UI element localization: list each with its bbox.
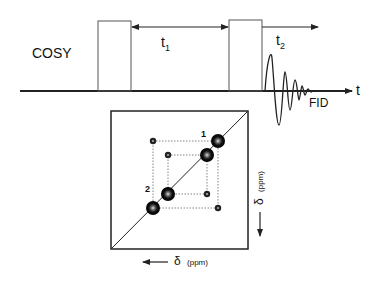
cosy-diagram (0, 0, 374, 281)
t1-subscript: 1 (165, 43, 170, 53)
fid-signal (265, 55, 313, 125)
pulse-1 (98, 21, 131, 91)
x-axis-unit: (ppm) (187, 258, 208, 267)
y-axis-unit: (ppm) (256, 171, 265, 192)
y-axis-label: δ (ppm) (252, 171, 266, 205)
peak-label-1: 1 (201, 129, 206, 139)
sequence-title: COSY (32, 45, 72, 61)
time-axis-label: t (356, 82, 360, 98)
spectrum-diagonal (112, 112, 247, 248)
t1-label: t1 (161, 34, 170, 53)
peak-label-2: 2 (145, 184, 150, 194)
fid-label: FID (309, 96, 328, 110)
y-axis-symbol: δ (252, 198, 266, 205)
x-axis-label: δ (ppm) (174, 254, 208, 268)
t2-subscript: 2 (280, 41, 285, 51)
t2-label: t2 (276, 32, 285, 51)
pulse-2 (229, 20, 262, 91)
x-axis-symbol: δ (174, 254, 181, 268)
